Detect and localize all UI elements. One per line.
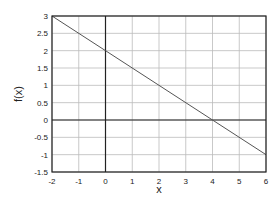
svg-text:3: 3 — [44, 12, 49, 21]
svg-text:1.5: 1.5 — [37, 64, 49, 73]
y-tick-labels: -1.5-1-0.500.511.522.53 — [34, 12, 48, 177]
x-axis-label: x — [156, 183, 162, 195]
svg-text:4: 4 — [210, 177, 215, 186]
svg-text:1: 1 — [130, 177, 135, 186]
svg-text:-1: -1 — [75, 177, 83, 186]
svg-text:0: 0 — [103, 177, 108, 186]
line-chart: -2-10123456 -1.5-1-0.500.511.522.53 x f(… — [0, 0, 280, 203]
svg-text:-1.5: -1.5 — [34, 168, 48, 177]
grid-lines — [52, 16, 266, 172]
svg-text:6: 6 — [264, 177, 269, 186]
svg-text:3: 3 — [184, 177, 189, 186]
svg-text:-1: -1 — [41, 151, 49, 160]
y-axis-label: f(x) — [12, 86, 24, 102]
svg-text:-0.5: -0.5 — [34, 133, 48, 142]
svg-text:5: 5 — [237, 177, 242, 186]
svg-text:1: 1 — [44, 81, 49, 90]
svg-text:2: 2 — [44, 47, 49, 56]
svg-text:0.5: 0.5 — [37, 99, 49, 108]
svg-text:2.5: 2.5 — [37, 29, 49, 38]
svg-text:0: 0 — [44, 116, 49, 125]
svg-text:-2: -2 — [48, 177, 56, 186]
